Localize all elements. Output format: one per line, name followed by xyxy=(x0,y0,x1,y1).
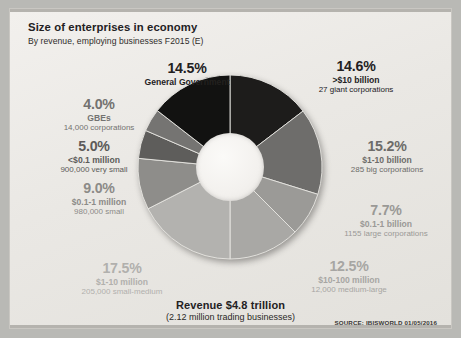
slice-desc-medium-large: $10-100 million xyxy=(282,275,416,285)
slice-count-giant: 27 giant corporations xyxy=(286,85,426,94)
slice-desc-big: $1-10 billion xyxy=(326,155,448,165)
slice-label-small: 9.0% $0.1-1 million 980,000 small xyxy=(36,180,162,216)
slice-count-large: 1155 large corporations xyxy=(322,229,450,238)
slice-desc-gbes: GBEs xyxy=(34,113,164,123)
slice-label-big: 15.2% $1-10 billion 285 big corporations xyxy=(326,138,448,174)
slice-desc-general-government: General Government xyxy=(116,77,258,87)
slice-label-giant: 14.6% >$10 billion 27 giant corporations xyxy=(286,58,426,94)
slice-desc-small-medium: $1-10 million xyxy=(52,277,192,287)
slice-label-medium-large: 12.5% $10-100 million 12,000 medium-larg… xyxy=(282,258,416,294)
page-subtitle: By revenue, employing businesses F2015 (… xyxy=(28,36,204,46)
slice-desc-giant: >$10 billion xyxy=(286,75,426,85)
infographic-card: Size of enterprises in economy By revenu… xyxy=(10,9,451,328)
page-title: Size of enterprises in economy xyxy=(28,21,197,33)
slice-count-small: 980,000 small xyxy=(36,207,162,216)
slice-count-small-medium: 205,000 small-medium xyxy=(52,287,192,296)
slice-count-gbes: 14,000 corporations xyxy=(34,123,164,132)
source-note: SOURCE: IBISWORLD 01/05/2016 xyxy=(334,319,437,326)
slice-pct-very-small: 5.0% xyxy=(26,138,162,155)
slice-pct-giant: 14.6% xyxy=(286,58,426,75)
total-revenue: Revenue $4.8 trillion xyxy=(10,299,451,311)
slice-pct-small-medium: 17.5% xyxy=(52,260,192,277)
slice-label-small-medium: 17.5% $1-10 million 205,000 small-medium xyxy=(52,260,192,296)
slice-pct-large: 7.7% xyxy=(322,202,450,219)
donut-hole xyxy=(196,133,264,201)
slice-desc-large: $0.1-1 billion xyxy=(322,219,450,229)
slice-count-medium-large: 12,000 medium-large xyxy=(282,285,416,294)
slice-pct-big: 15.2% xyxy=(326,138,448,155)
card-inner: Size of enterprises in economy By revenu… xyxy=(10,12,451,325)
slice-label-large: 7.7% $0.1-1 billion 1155 large corporati… xyxy=(322,202,450,238)
slice-label-very-small: 5.0% <$0.1 million 900,000 very small xyxy=(26,138,162,174)
slice-pct-small: 9.0% xyxy=(36,180,162,197)
slice-pct-medium-large: 12.5% xyxy=(282,258,416,275)
slice-pct-general-government: 14.5% xyxy=(116,60,258,77)
slice-pct-gbes: 4.0% xyxy=(34,96,164,113)
slice-label-general-government: 14.5% General Government xyxy=(116,60,258,87)
slice-label-gbes: 4.0% GBEs 14,000 corporations xyxy=(34,96,164,132)
slice-count-big: 285 big corporations xyxy=(326,165,448,174)
slice-count-very-small: 900,000 very small xyxy=(26,165,162,174)
slice-desc-very-small: <$0.1 million xyxy=(26,155,162,165)
slice-desc-small: $0.1-1 million xyxy=(36,197,162,207)
